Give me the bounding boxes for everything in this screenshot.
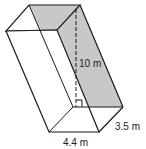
height-label: 10 m [79, 58, 101, 69]
depth-label: 3.5 m [115, 121, 140, 132]
width-label: 4.4 m [63, 137, 88, 148]
prism-svg: 10 m 3.5 m 4.4 m [0, 0, 146, 149]
prism-diagram: 10 m 3.5 m 4.4 m [0, 0, 146, 149]
